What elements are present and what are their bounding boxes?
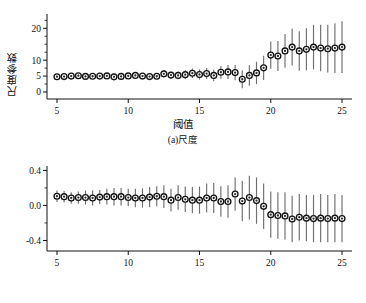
y-tick-label: -0.4 xyxy=(26,236,41,246)
data-point-center xyxy=(191,199,193,201)
data-point-center xyxy=(156,75,158,77)
data-point-center xyxy=(141,75,143,77)
data-point-center xyxy=(327,217,329,219)
data-point-center xyxy=(241,78,243,80)
data-point-center xyxy=(227,71,229,73)
shape-plot: -0.40.00.4510152025 xyxy=(0,150,366,303)
x-axis-label-scale: 阈值 xyxy=(0,116,366,131)
data-point-center xyxy=(56,195,58,197)
x-tick-label: 20 xyxy=(266,258,276,268)
data-point-center xyxy=(70,75,72,77)
x-tick-label: 10 xyxy=(123,106,133,116)
data-point-center xyxy=(234,193,236,195)
data-point-center xyxy=(127,196,129,198)
data-point-center xyxy=(220,71,222,73)
data-point-center xyxy=(84,196,86,198)
data-point-center xyxy=(91,197,93,199)
data-point-center xyxy=(305,217,307,219)
data-point-center xyxy=(106,196,108,198)
data-point-center xyxy=(148,196,150,198)
data-point-center xyxy=(177,196,179,198)
data-point-center xyxy=(56,76,58,78)
data-point-center xyxy=(262,67,264,69)
data-point-center xyxy=(312,217,314,219)
data-point-center xyxy=(220,200,222,202)
data-point-center xyxy=(63,196,65,198)
y-tick-label: 5 xyxy=(36,71,41,81)
y-tick-label: 0.0 xyxy=(29,201,41,211)
data-point-center xyxy=(248,74,250,76)
y-tick-label: 0.4 xyxy=(29,166,41,176)
data-point-center xyxy=(284,215,286,217)
x-tick-label: 15 xyxy=(195,106,205,116)
data-point-center xyxy=(205,197,207,199)
data-point-center xyxy=(213,74,215,76)
y-tick-label: 20 xyxy=(32,24,42,34)
data-point-center xyxy=(120,75,122,77)
data-point-center xyxy=(234,71,236,73)
data-point-center xyxy=(319,47,321,49)
data-point-center xyxy=(341,46,343,48)
figure-container: 051020510152025 尺度参数 阈值 (a)尺度 -0.40.00.4… xyxy=(0,0,366,303)
data-point-center xyxy=(184,73,186,75)
data-point-center xyxy=(99,75,101,77)
data-point-center xyxy=(170,74,172,76)
data-point-center xyxy=(298,50,300,52)
data-point-center xyxy=(327,48,329,50)
data-point-center xyxy=(120,196,122,198)
data-point-center xyxy=(91,75,93,77)
data-point-center xyxy=(198,199,200,201)
data-point-center xyxy=(184,198,186,200)
data-point-center xyxy=(248,196,250,198)
data-point-center xyxy=(341,217,343,219)
data-point-center xyxy=(284,50,286,52)
data-series xyxy=(54,21,345,88)
data-point-center xyxy=(298,216,300,218)
x-tick-label: 5 xyxy=(55,106,60,116)
data-point-center xyxy=(84,75,86,77)
data-point-center xyxy=(305,48,307,50)
data-point-center xyxy=(312,46,314,48)
x-tick-label: 5 xyxy=(55,258,60,268)
data-point-center xyxy=(227,200,229,202)
data-point-center xyxy=(113,196,115,198)
data-point-center xyxy=(277,55,279,57)
y-axis-label-scale: 尺度参数 xyxy=(5,24,20,96)
data-point-center xyxy=(170,199,172,201)
panel-caption-scale: (a)尺度 xyxy=(0,132,366,146)
x-tick-label: 15 xyxy=(195,258,205,268)
data-point-center xyxy=(77,196,79,198)
y-tick-label: 0 xyxy=(36,87,41,97)
data-point-center xyxy=(262,205,264,207)
data-point-center xyxy=(70,197,72,199)
data-point-center xyxy=(77,75,79,77)
data-point-center xyxy=(319,217,321,219)
data-point-center xyxy=(241,200,243,202)
data-point-center xyxy=(63,75,65,77)
data-point-center xyxy=(270,213,272,215)
data-point-center xyxy=(127,75,129,77)
data-point-center xyxy=(270,54,272,56)
x-tick-label: 25 xyxy=(337,258,347,268)
data-point-center xyxy=(334,47,336,49)
data-point-center xyxy=(106,75,108,77)
data-point-center xyxy=(291,218,293,220)
data-point-center xyxy=(148,75,150,77)
x-tick-label: 25 xyxy=(337,106,347,116)
panel-scale: 051020510152025 尺度参数 阈值 (a)尺度 xyxy=(0,0,366,150)
data-point-center xyxy=(334,217,336,219)
data-point-center xyxy=(198,73,200,75)
data-point-center xyxy=(213,197,215,199)
data-point-center xyxy=(134,197,136,199)
data-point-center xyxy=(134,74,136,76)
data-point-center xyxy=(291,46,293,48)
data-point-center xyxy=(163,73,165,75)
y-tick-label: 10 xyxy=(32,56,42,66)
data-point-center xyxy=(113,76,115,78)
data-point-center xyxy=(177,74,179,76)
data-point-center xyxy=(156,195,158,197)
data-point-center xyxy=(255,199,257,201)
data-point-center xyxy=(141,197,143,199)
x-tick-label: 10 xyxy=(123,258,133,268)
x-tick-label: 20 xyxy=(266,106,276,116)
